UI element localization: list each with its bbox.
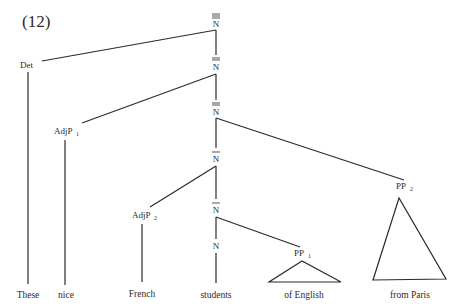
word-from-paris: from Paris xyxy=(390,290,430,300)
node-n: N xyxy=(213,241,220,251)
node-pp1: PP 1 xyxy=(294,248,311,259)
node-adjp2: AdjP 2 xyxy=(132,210,157,221)
node-n-bar-2: N xyxy=(212,203,220,215)
triangle-pp1 xyxy=(269,261,341,282)
edge-n2-pp2 xyxy=(216,118,404,180)
svg-text:AdjP: AdjP xyxy=(54,126,73,136)
word-these: These xyxy=(17,290,40,300)
node-n-double-bar-2: N xyxy=(212,103,220,117)
edge-n2-adjp1 xyxy=(82,74,216,123)
node-pp2: PP 2 xyxy=(396,181,413,192)
word-students: students xyxy=(200,290,231,300)
svg-text:1: 1 xyxy=(76,131,79,137)
svg-text:PP: PP xyxy=(294,248,304,258)
triangle-pp2 xyxy=(373,198,446,280)
svg-text:N: N xyxy=(213,19,220,29)
svg-text:2: 2 xyxy=(154,215,157,221)
svg-text:1: 1 xyxy=(308,253,311,259)
edge-n1-pp1 xyxy=(216,217,300,247)
word-of-english: of English xyxy=(284,290,324,300)
node-n-triple-bar: N xyxy=(212,14,220,29)
svg-text:N: N xyxy=(213,62,220,72)
node-det: Det xyxy=(20,60,33,70)
edge-n3-det xyxy=(42,30,216,61)
svg-text:N: N xyxy=(213,205,220,215)
word-nice: nice xyxy=(58,290,74,300)
svg-text:N: N xyxy=(213,154,220,164)
example-number: (12) xyxy=(22,12,50,31)
svg-text:PP: PP xyxy=(396,181,406,191)
svg-text:AdjP: AdjP xyxy=(132,210,151,220)
node-n-bar-1: N xyxy=(212,152,220,164)
svg-text:N: N xyxy=(213,107,220,117)
edge-n1-adjp2 xyxy=(150,166,216,207)
node-n-double-bar-1: N xyxy=(212,58,220,72)
syntax-tree: (12) N Det N AdjP 1 N N AdjP 2 xyxy=(0,0,461,307)
node-adjp1: AdjP 1 xyxy=(54,126,79,137)
svg-text:2: 2 xyxy=(410,186,413,192)
word-french: French xyxy=(129,289,156,299)
